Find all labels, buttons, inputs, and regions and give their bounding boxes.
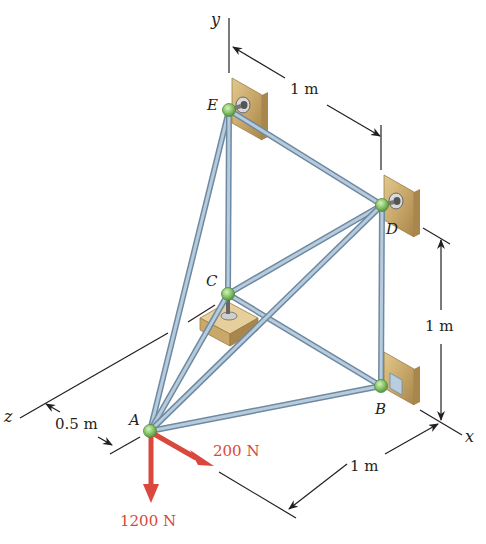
member-AD	[150, 205, 382, 431]
node-label-A: A	[129, 413, 140, 428]
force-200N-arrow	[154, 434, 214, 466]
dimension-bottom-label: 1 m	[350, 459, 379, 474]
member-EC	[228, 110, 229, 294]
z-axis	[20, 305, 215, 418]
truss-diagram	[0, 0, 486, 544]
joint-B	[375, 380, 388, 393]
node-label-D: D	[386, 222, 398, 237]
joint-C	[222, 288, 235, 301]
support-B	[384, 352, 420, 405]
joint-E	[223, 104, 236, 117]
members	[150, 110, 382, 431]
dimension-top-label: 1 m	[290, 82, 319, 97]
member-CB	[228, 294, 381, 386]
force-label-1200N: 1200 N	[120, 514, 176, 529]
y-axis-label: y	[211, 12, 220, 28]
dimension-bottom	[219, 424, 438, 518]
force-label-200N: 200 N	[213, 444, 260, 459]
joint-A	[144, 425, 157, 438]
member-DB	[381, 205, 382, 386]
node-label-B: B	[375, 402, 386, 417]
x-axis-label: x	[465, 429, 474, 445]
force-1200N-arrow	[143, 436, 159, 503]
z-axis-label: z	[4, 409, 12, 425]
dimension-left-label: 0.5 m	[55, 417, 98, 432]
joint-D	[376, 199, 389, 212]
member-AE	[150, 110, 229, 431]
node-label-E: E	[207, 98, 218, 113]
dimension-right-label: 1 m	[425, 319, 454, 334]
node-label-C: C	[206, 274, 217, 289]
member-AB	[150, 386, 381, 431]
